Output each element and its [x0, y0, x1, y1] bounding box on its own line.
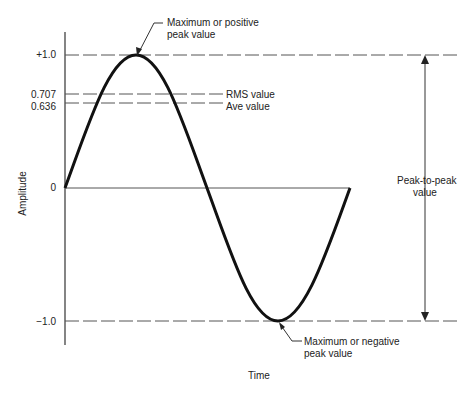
positive-peak-label-2: peak value [167, 29, 215, 40]
peak-to-peak-label-1: Peak-to-peak [397, 175, 456, 186]
sine-diagram [0, 0, 470, 393]
peak-to-peak-label-2: value [413, 187, 437, 198]
leader-arrow-icon [279, 322, 285, 330]
y-axis-label: Amplitude [17, 164, 28, 224]
arrow-up-icon [421, 55, 429, 64]
tick-rms: 0.707 [0, 89, 56, 100]
tick-zero: 0 [0, 182, 56, 193]
arrow-down-icon [421, 312, 429, 321]
rms-label: RMS value [226, 89, 275, 100]
positive-peak-leader [139, 23, 163, 52]
tick-plus-one: +1.0 [0, 49, 56, 60]
positive-peak-label-1: Maximum or positive [167, 17, 259, 28]
negative-peak-label-2: peak value [304, 348, 352, 359]
tick-minus-one: −1.0 [0, 316, 56, 327]
negative-peak-label-1: Maximum or negative [304, 336, 400, 347]
x-axis-label: Time [248, 370, 270, 381]
tick-ave: 0.636 [0, 101, 56, 112]
average-label: Ave value [226, 101, 270, 112]
